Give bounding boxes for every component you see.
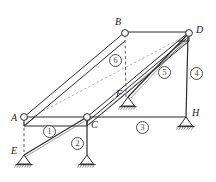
node-label-f: F <box>116 89 122 99</box>
statics-figure: A B C D E F H 1 2 3 4 5 6 <box>0 0 216 182</box>
node-label-e: E <box>11 146 17 156</box>
support-pin-g <box>77 155 95 168</box>
node-label-h: H <box>192 108 199 118</box>
truss-drawing <box>0 0 216 182</box>
member-4-line <box>186 35 188 117</box>
rigid-plate <box>24 32 189 126</box>
member-label-4: 4 <box>190 67 203 80</box>
support-pin-h <box>176 117 194 130</box>
member-label-3: 3 <box>136 121 149 134</box>
node-label-c: C <box>91 120 98 130</box>
joint-c <box>84 114 91 121</box>
node-label-b: B <box>115 17 121 27</box>
joint-b <box>122 30 129 37</box>
node-label-d: D <box>196 25 203 35</box>
joint-a <box>21 114 28 121</box>
node-label-a: A <box>11 113 17 123</box>
member-label-1: 1 <box>43 125 56 138</box>
member-label-2: 2 <box>71 137 84 150</box>
member-label-5: 5 <box>158 66 171 79</box>
joint-d <box>186 30 193 37</box>
support-pin-e <box>14 155 32 168</box>
member-label-6: 6 <box>109 54 122 67</box>
